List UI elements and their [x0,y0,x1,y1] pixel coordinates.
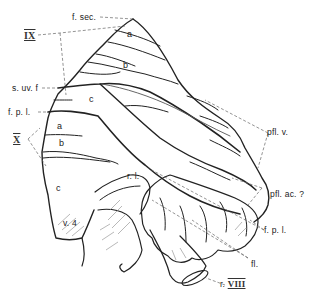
cerebellum-diagram: f. sec. IX s. uv. f f. p. l. X a b c a b… [0,0,317,295]
right-contour [133,19,269,222]
paraflocculus-outline [141,175,258,262]
label-f-p-l-left: f. p. l. [8,108,30,117]
label-f-sec: f. sec. [72,13,96,22]
nerve-VIII-root [150,230,206,283]
label-pfl-ac: pfl. ac. ? [270,190,304,199]
leader-f-sec [100,17,133,19]
label-IX-a: a [127,30,132,39]
label-X-c: c [56,184,61,193]
leader-fl [152,200,248,258]
label-IX-c: c [89,95,94,104]
leader-pfl-v [205,100,268,168]
cerebellum-outline [42,19,133,240]
leader-pfl-ac [232,178,262,205]
label-lobe-IX: IX [24,31,36,41]
label-X-a: a [57,122,62,131]
label-v-4: v. 4 [63,219,77,228]
label-r-l: r. l. [127,172,139,181]
diagram-drawing [0,0,317,295]
label-f-p-l-right: f. p. l. [264,226,286,235]
label-pfl-v: pfl. v. [267,128,288,137]
label-r-VIII-numeral: VIII [228,279,246,289]
label-IX-b: b [123,61,128,70]
label-r-VIII: r. VIII [220,280,246,289]
label-r-VIII-prefix: r. [220,279,225,289]
label-fl: fl. [251,260,258,269]
label-s-uv-f: s. uv. f [12,84,38,93]
label-X-b: b [59,139,64,148]
label-lobe-X: X [13,135,20,145]
